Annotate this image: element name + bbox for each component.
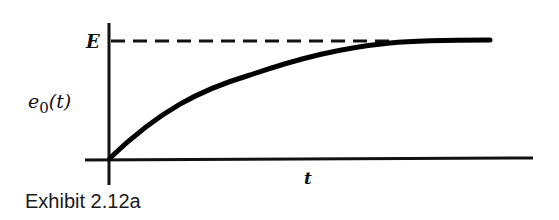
figure-caption: Exhibit 2.12a	[25, 190, 141, 213]
y-axis-label: e0(t)	[28, 90, 71, 117]
response-curve	[110, 40, 490, 158]
x-axis	[85, 158, 533, 160]
asymptote-label: E	[85, 31, 100, 52]
chart: E e0(t) t	[0, 0, 559, 220]
x-axis-label: t	[304, 168, 312, 188]
